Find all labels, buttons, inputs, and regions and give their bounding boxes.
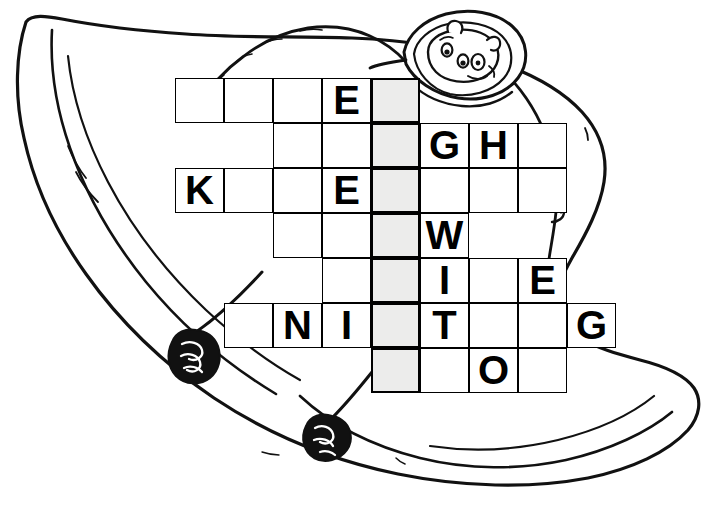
illustration-canvas: EGHKEWIENITGO bbox=[0, 0, 716, 506]
crossword-cell[interactable] bbox=[224, 168, 273, 213]
crossword-letter: E bbox=[333, 170, 360, 210]
crossword-cell[interactable]: G bbox=[420, 123, 469, 168]
crossword-cell[interactable]: E bbox=[322, 168, 371, 213]
crossword-cell[interactable] bbox=[420, 168, 469, 213]
crossword-cell[interactable] bbox=[420, 348, 469, 393]
crossword-cell[interactable]: I bbox=[420, 258, 469, 303]
crossword-cell-shaded[interactable] bbox=[371, 348, 420, 393]
crossword-cell[interactable]: I bbox=[322, 303, 371, 348]
crossword-cell[interactable] bbox=[322, 258, 371, 303]
crossword-cell[interactable]: E bbox=[518, 258, 567, 303]
crossword-cell[interactable] bbox=[322, 123, 371, 168]
crossword-cell[interactable]: T bbox=[420, 303, 469, 348]
crossword-cell-shaded[interactable] bbox=[371, 213, 420, 258]
crossword-letter: T bbox=[432, 305, 456, 345]
crossword-cell[interactable]: G bbox=[567, 303, 616, 348]
crossword-cell-shaded[interactable] bbox=[371, 78, 420, 123]
crossword-cell[interactable] bbox=[469, 168, 518, 213]
crossword-cell[interactable] bbox=[273, 168, 322, 213]
crossword-cell[interactable]: N bbox=[273, 303, 322, 348]
crossword-letter: G bbox=[576, 305, 607, 345]
crossword-cell[interactable] bbox=[224, 78, 273, 123]
crossword-cell[interactable] bbox=[273, 213, 322, 258]
crossword-letter: O bbox=[478, 350, 509, 390]
crossword-cell[interactable]: W bbox=[420, 213, 469, 258]
crossword-letter: G bbox=[429, 125, 460, 165]
crossword-cell[interactable]: H bbox=[469, 123, 518, 168]
crossword-cell[interactable] bbox=[273, 123, 322, 168]
crossword-cell[interactable]: E bbox=[322, 78, 371, 123]
crossword-cell[interactable] bbox=[469, 303, 518, 348]
crossword-cell[interactable] bbox=[322, 213, 371, 258]
crossword-cell-shaded[interactable] bbox=[371, 303, 420, 348]
crossword-cell[interactable] bbox=[518, 348, 567, 393]
crossword-cell[interactable] bbox=[518, 168, 567, 213]
crossword-cell[interactable] bbox=[224, 303, 273, 348]
crossword-cell[interactable]: K bbox=[175, 168, 224, 213]
crossword-grid[interactable]: EGHKEWIENITGO bbox=[0, 0, 716, 506]
crossword-letter: I bbox=[341, 305, 352, 345]
crossword-letter: E bbox=[529, 260, 556, 300]
crossword-cell-shaded[interactable] bbox=[371, 258, 420, 303]
crossword-letter: E bbox=[333, 80, 360, 120]
crossword-cell[interactable] bbox=[175, 78, 224, 123]
crossword-cell[interactable] bbox=[518, 123, 567, 168]
crossword-letter: H bbox=[479, 125, 508, 165]
crossword-cell[interactable] bbox=[518, 303, 567, 348]
crossword-cell[interactable] bbox=[273, 78, 322, 123]
crossword-cell[interactable]: O bbox=[469, 348, 518, 393]
crossword-letter: I bbox=[439, 260, 450, 300]
crossword-cell-shaded[interactable] bbox=[371, 123, 420, 168]
crossword-cell-shaded[interactable] bbox=[371, 168, 420, 213]
crossword-letter: W bbox=[426, 215, 464, 255]
crossword-letter: N bbox=[283, 305, 312, 345]
crossword-cell[interactable] bbox=[469, 258, 518, 303]
crossword-letter: K bbox=[185, 170, 214, 210]
